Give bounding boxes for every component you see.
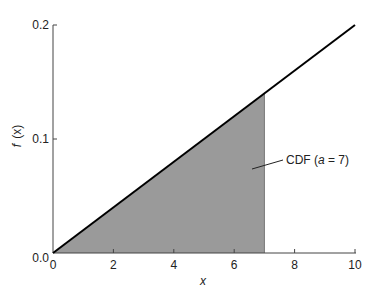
y-tick-label: 0.2 [32,18,49,32]
y-tick-label: 0.0 [32,251,49,265]
annotation-prefix: CDF ( [286,153,318,167]
x-tick-label: 8 [291,258,298,272]
x-tick-label: 4 [170,258,177,272]
annotation-suffix: = 7) [325,153,349,167]
x-tick-label: 6 [231,258,238,272]
x-axis-label: x [199,274,207,288]
x-tick-label: 10 [348,258,362,272]
chart: 0.2 0.1 0.0 0 2 4 6 8 10 x f (x) CDF (a … [0,0,375,301]
x-tick-label: 2 [110,258,117,272]
y-tick-label: 0.1 [32,132,49,146]
x-tick-label: 0 [50,258,57,272]
annotation-label: CDF (a = 7) [286,153,349,167]
y-axis-label: f (x) [10,125,24,148]
y-axis-label-f: f [10,142,24,147]
y-axis-label-x: (x) [10,125,24,139]
